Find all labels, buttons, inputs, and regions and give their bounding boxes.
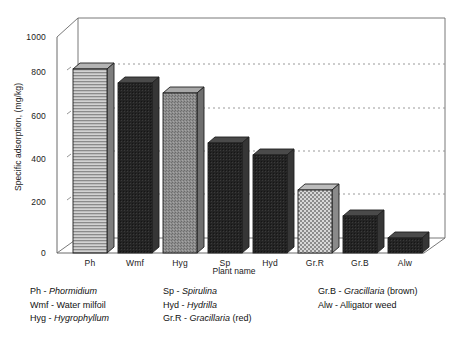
legend-code-wmf: Wmf - xyxy=(30,300,57,310)
legend-suffix-grb: (brown) xyxy=(385,286,418,296)
legend-item-grr: Gr.R - Gracillaria (red) xyxy=(163,312,313,326)
legend-item-hyg: Hyg - Hygrophyllum xyxy=(30,312,180,326)
y-tick-0: 0 xyxy=(12,249,46,258)
legend-name-grr: Gracillaria xyxy=(190,313,231,323)
legend-name-ph: Phormidium xyxy=(49,286,97,296)
legend-code-alw: Alw - xyxy=(318,300,340,310)
legend-name-hyg: Hygrophyllum xyxy=(54,313,109,323)
x-axis-title: Plant name xyxy=(0,266,468,276)
legend-item-ph: Ph - Phormidium xyxy=(30,285,180,299)
y-tick-marks xyxy=(67,67,71,200)
y-tick-1000: 1000 xyxy=(12,33,46,42)
legend-name-hyd: Hydrilla xyxy=(187,300,217,310)
legend-code-sp: Sp - xyxy=(163,286,182,296)
bar-Ph xyxy=(73,63,114,253)
bar-GrR xyxy=(298,184,339,253)
figure-root: 1000 800 600 400 200 0 Specific adsorpti… xyxy=(0,0,468,346)
y-axis-ticks: 1000 800 600 400 200 0 xyxy=(6,0,46,285)
bar-Alw xyxy=(388,232,429,253)
legend-code-ph: Ph - xyxy=(30,286,49,296)
legend-item-sp: Sp - Spirulina xyxy=(163,285,313,299)
bar-Hyg xyxy=(163,87,204,253)
legend-item-alw: Alw - Alligator weed xyxy=(318,299,468,313)
bar-GrB xyxy=(343,210,384,253)
legend-item-wmf: Wmf - Water milfoil xyxy=(30,299,180,313)
bar-Sp xyxy=(208,137,249,253)
bar-Wmf xyxy=(118,77,159,253)
backdrop-edge-top-left xyxy=(57,18,78,37)
bar-Hyd xyxy=(253,149,294,253)
legend-name-wmf: Water milfoil xyxy=(57,300,106,310)
legend-suffix-grr: (red) xyxy=(230,313,252,323)
legend-code-hyg: Hyg - xyxy=(30,313,54,323)
legend-code-grr: Gr.R - xyxy=(163,313,190,323)
legend-block: Ph - Phormidium Wmf - Water milfoil Hyg … xyxy=(0,285,468,346)
bar-chart-svg xyxy=(0,0,468,285)
chart-plot-area: 1000 800 600 400 200 0 Specific adsorpti… xyxy=(0,0,468,285)
legend-code-grb: Gr.B - xyxy=(318,286,344,296)
legend-column-2: Sp - Spirulina Hyd - Hydrilla Gr.R - Gra… xyxy=(163,285,313,326)
legend-item-grb: Gr.B - Gracillaria (brown) xyxy=(318,285,468,299)
legend-name-alw: Alligator weed xyxy=(340,300,397,310)
y-axis-title: Specific adsorption, (mg/kg) xyxy=(13,62,23,212)
legend-column-1: Ph - Phormidium Wmf - Water milfoil Hyg … xyxy=(30,285,180,326)
legend-column-3: Gr.B - Gracillaria (brown) Alw - Alligat… xyxy=(318,285,468,312)
legend-name-sp: Spirulina xyxy=(182,286,217,296)
legend-name-grb: Gracillaria xyxy=(344,286,385,296)
legend-item-hyd: Hyd - Hydrilla xyxy=(163,299,313,313)
legend-code-hyd: Hyd - xyxy=(163,300,187,310)
